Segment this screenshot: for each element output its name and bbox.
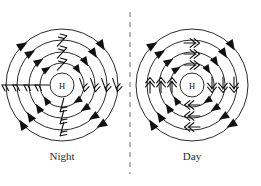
day-arrows-bottom: [185, 101, 201, 132]
day-arrows-right: [208, 77, 239, 93]
night-pressure-center-label: H: [59, 81, 65, 91]
night-windbarbs-left: [2, 85, 49, 91]
night-windbarbs-right: [80, 76, 123, 91]
panel-night: H Night: [2, 29, 123, 162]
pressure-system-diagram: H Night: [0, 0, 261, 186]
night-caption: Night: [49, 150, 74, 162]
figure-canvas: H Night: [0, 0, 261, 186]
day-caption: Day: [183, 150, 202, 162]
panel-day: H Day: [136, 29, 248, 162]
day-arrows-left: [146, 78, 177, 94]
day-pressure-center-label: H: [189, 81, 195, 91]
day-arrows-top: [184, 39, 200, 70]
